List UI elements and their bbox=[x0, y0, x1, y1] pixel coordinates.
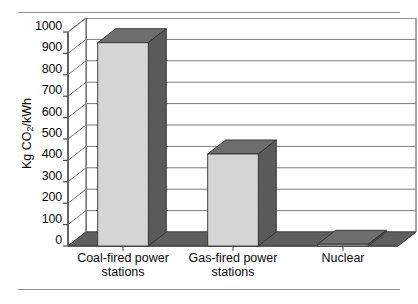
bottom-horizontal-rule bbox=[18, 289, 400, 290]
bar-1[interactable] bbox=[208, 140, 277, 251]
x-category-label-line: Coal-fired power bbox=[63, 252, 183, 266]
plot-area bbox=[0, 18, 418, 282]
x-category-label: Nuclear bbox=[283, 252, 403, 266]
bar-front-face bbox=[208, 154, 259, 246]
bar-0[interactable] bbox=[98, 29, 167, 251]
x-axis-category-labels: Coal-fired powerstationsGas-fired powers… bbox=[0, 250, 418, 284]
top-horizontal-rule bbox=[18, 12, 400, 13]
bar-side-face bbox=[258, 140, 276, 246]
x-category-label: Coal-fired powerstations bbox=[63, 252, 183, 279]
x-category-label: Gas-fired powerstations bbox=[173, 252, 293, 279]
x-category-label-line: Gas-fired power bbox=[173, 252, 293, 266]
bar-front-face bbox=[318, 244, 369, 246]
bar-front-face bbox=[98, 43, 149, 246]
bar-side-face bbox=[148, 29, 166, 246]
x-category-label-line: stations bbox=[173, 266, 293, 280]
figure-container: Kg CO2/kWh 01002003004005006007008009001… bbox=[0, 0, 418, 304]
bar-chart: Kg CO2/kWh 01002003004005006007008009001… bbox=[0, 18, 418, 282]
x-category-label-line: stations bbox=[63, 266, 183, 280]
x-category-label-line: Nuclear bbox=[283, 252, 403, 266]
